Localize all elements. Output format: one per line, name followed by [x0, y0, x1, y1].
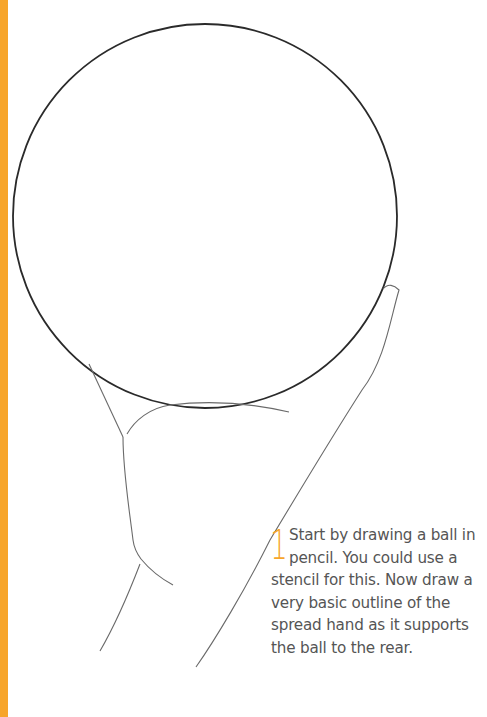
- step-text: Start by drawing a ball in pencil. You c…: [271, 526, 475, 657]
- step-caption: 1Start by drawing a ball in pencil. You …: [271, 524, 486, 660]
- step-number: 1: [270, 526, 281, 564]
- ball-outline: [13, 24, 397, 408]
